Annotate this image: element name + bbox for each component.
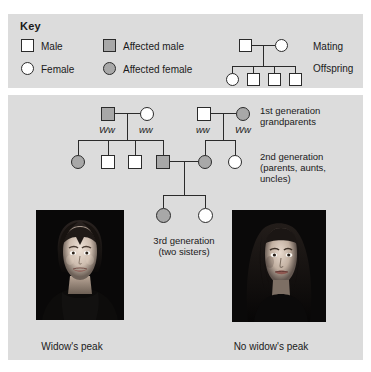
key-example-child-icon (247, 73, 260, 86)
gen2-child-drop (205, 140, 206, 155)
key-example-child-icon (289, 73, 302, 86)
key-example-mother-icon (275, 39, 288, 52)
gen1-grandmother-right (236, 107, 250, 121)
gen1-grandmother-left (140, 107, 154, 121)
gen1-genotype-right-female: Ww (235, 124, 251, 135)
circle-affected-icon (103, 62, 116, 75)
gen1-grandfather-left (101, 107, 115, 121)
caption-widows-peak: Widow's peak (28, 341, 116, 352)
gen1-grandfather-right (197, 107, 211, 121)
key-label-affected-female: Affected female (123, 64, 192, 75)
gen2-sibship-line-right (205, 140, 235, 141)
gen1-genotype-right-male: ww (196, 124, 210, 135)
key-label-affected-male: Affected male (123, 41, 184, 52)
gen3-label: 3rd generation (two sisters) (129, 235, 239, 257)
key-label-female: Female (41, 64, 74, 75)
gen1-descent-line-left (127, 113, 128, 140)
gen1-descent-line-right (223, 113, 224, 140)
caption-no-widows-peak: No widow's peak (224, 341, 318, 352)
gen2-label-line2: (parents, aunts, (260, 163, 326, 174)
key-label-offspring: Offspring (313, 63, 353, 74)
gen2-father-affected (156, 155, 170, 169)
key-example-sibship-line (232, 66, 295, 67)
gen1-label-line2: grandparents (260, 117, 316, 128)
gen2-child-drop (135, 140, 136, 155)
square-unaffected-icon (21, 39, 34, 52)
gen3-sibship-line (163, 195, 205, 196)
gen2-child-drop (108, 140, 109, 155)
gen2-child-drop (163, 140, 164, 155)
gen3-child-drop (205, 195, 206, 208)
gen1-label-line1: 1st generation (260, 106, 320, 117)
gen3-label-line1: 3rd generation (153, 235, 214, 246)
gen3-sister-unaffected (198, 208, 213, 223)
key-title: Key (20, 20, 41, 32)
gen2-child-drop (78, 140, 79, 155)
photo-widows-peak-image (36, 210, 124, 320)
gen1-genotype-left-male: Ww (99, 124, 115, 135)
gen2-label-line1: 2nd generation (260, 152, 323, 163)
key-example-father-icon (239, 39, 252, 52)
key-panel: Key Male Female Affected male Affected f… (8, 14, 363, 88)
gen2-mother-affected (198, 155, 212, 169)
gen2-label-line3: uncles) (260, 174, 291, 185)
gen3-sister-affected (156, 208, 171, 223)
gen2-uncle-unaffected-2 (128, 155, 142, 169)
gen2-uncle-unaffected-1 (101, 155, 115, 169)
key-example-child-icon (268, 73, 281, 86)
pedigree-panel: Ww ww ww Ww 1st generation grandparents … (8, 95, 363, 360)
key-example-child-icon (226, 73, 239, 86)
key-label-mating: Mating (313, 41, 343, 52)
gen2-child-drop (235, 140, 236, 155)
circle-unaffected-icon (21, 62, 34, 75)
photo-widows-peak (36, 210, 124, 320)
gen1-genotype-left-female: ww (139, 124, 153, 135)
gen2-sibship-line-left (78, 140, 164, 141)
key-example-descent-line (263, 45, 264, 66)
square-affected-icon (103, 39, 116, 52)
gen2-aunt-unaffected (228, 155, 242, 169)
gen3-child-drop (163, 195, 164, 208)
gen2-descent-line (184, 161, 185, 195)
key-label-male: Male (41, 41, 63, 52)
gen3-label-line2: (two sisters) (158, 246, 209, 257)
photo-no-widows-peak-image (232, 210, 326, 322)
gen2-aunt-affected (71, 155, 85, 169)
photo-no-widows-peak (232, 210, 326, 322)
